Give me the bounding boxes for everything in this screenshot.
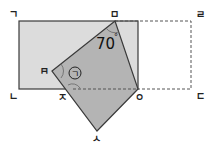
vertex-label-bottom-left: ㄴ xyxy=(9,91,18,102)
folded-rectangle-diagram: 70 ° ㄱ ㄱ ㄴ ㄷ ㄹ ㅁ ㅂ ㅅ ㅇ ㅈ xyxy=(0,0,216,143)
angle-value-label: 70 xyxy=(96,35,115,53)
vertex-label-fold-left: ㅂ xyxy=(40,65,49,76)
vertex-label-top-left: ㄱ xyxy=(9,9,18,20)
vertex-label-bottom-right: ㄷ xyxy=(196,91,205,102)
vertex-label-fold-top: ㅁ xyxy=(110,9,119,20)
vertex-label-cross-point: ㅈ xyxy=(58,92,67,103)
vertex-label-fold-bottom: ㅅ xyxy=(92,133,101,143)
vertex-label-top-right: ㄹ xyxy=(196,9,205,20)
vertex-label-fold-right: ㅇ xyxy=(135,92,144,103)
angle-degree-symbol: ° xyxy=(114,33,118,42)
unknown-angle-label: ㄱ xyxy=(71,69,79,79)
